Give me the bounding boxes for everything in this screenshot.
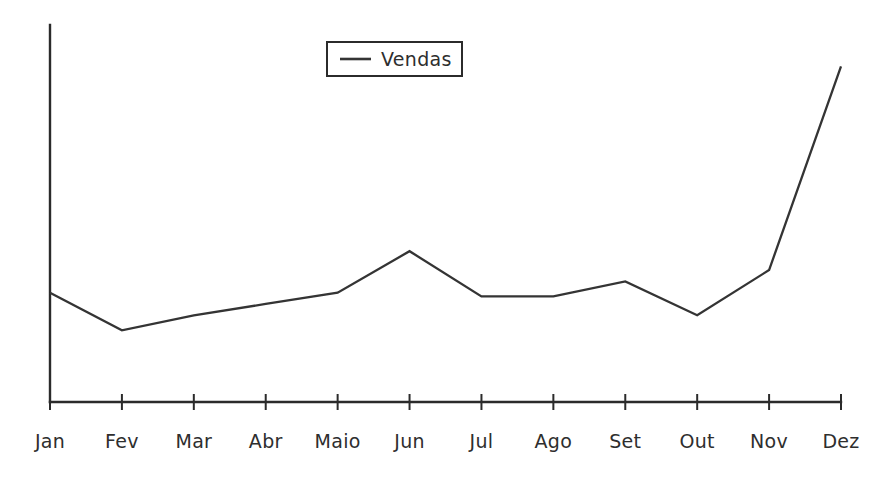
series-line-vendas: [50, 66, 841, 330]
x-tick-label-maio: Maio: [315, 430, 361, 452]
x-tick-label-jan: Jan: [34, 430, 65, 452]
x-tick-label-mar: Mar: [175, 430, 212, 452]
x-tick-label-nov: Nov: [750, 430, 788, 452]
x-tick-label-jul: Jul: [469, 430, 494, 452]
legend: Vendas: [327, 42, 462, 76]
x-axis-tick-labels: JanFevMarAbrMaioJunJulAgoSetOutNovDez: [34, 430, 860, 452]
legend-label-vendas: Vendas: [381, 48, 452, 70]
x-tick-label-set: Set: [609, 430, 641, 452]
x-tick-label-abr: Abr: [249, 430, 283, 452]
x-tick-label-ago: Ago: [535, 430, 573, 452]
line-chart: JanFevMarAbrMaioJunJulAgoSetOutNovDez Ve…: [0, 0, 893, 478]
x-tick-label-dez: Dez: [822, 430, 859, 452]
x-tick-label-jun: Jun: [393, 430, 425, 452]
chart-canvas: JanFevMarAbrMaioJunJulAgoSetOutNovDez Ve…: [0, 0, 893, 478]
x-tick-label-out: Out: [680, 430, 715, 452]
x-tick-label-fev: Fev: [105, 430, 139, 452]
